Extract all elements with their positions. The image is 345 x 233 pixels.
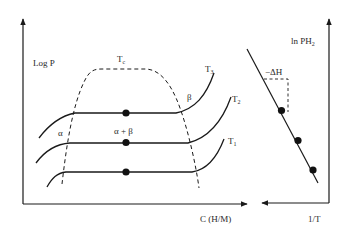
plateau-point-t3 <box>122 109 129 116</box>
vant-hoff-point-1 <box>278 107 285 114</box>
t3-label: T3 <box>205 64 214 75</box>
pct-diagram: Log P Tc T3 T2 T1 α β α + β C (H/M) ln P… <box>0 0 345 233</box>
vant-hoff-point-2 <box>294 137 301 144</box>
beta-phase-label: β <box>187 92 192 102</box>
enthalpy-label: −ΔH <box>265 67 283 77</box>
ln-ph2-label: ln PH2 <box>291 36 315 47</box>
right-plot-axes <box>262 19 329 203</box>
alpha-phase-label: α <box>58 128 63 138</box>
left-plot-axes <box>23 19 247 204</box>
isotherm-t2 <box>36 97 231 163</box>
t1-label: T1 <box>228 136 237 147</box>
critical-temp-label: Tc <box>117 54 126 65</box>
plateau-point-t2 <box>122 139 129 146</box>
concentration-axis-label: C (H/M) <box>200 214 231 224</box>
t2-label: T2 <box>232 94 241 105</box>
vant-hoff-point-3 <box>309 166 316 173</box>
slope-indicator <box>264 79 288 112</box>
two-phase-region-label: α + β <box>114 126 133 136</box>
inverse-temp-label: 1/T <box>308 214 321 224</box>
plateau-point-t1 <box>122 168 129 175</box>
log-p-label: Log P <box>33 58 55 68</box>
vant-hoff-line <box>247 49 318 183</box>
